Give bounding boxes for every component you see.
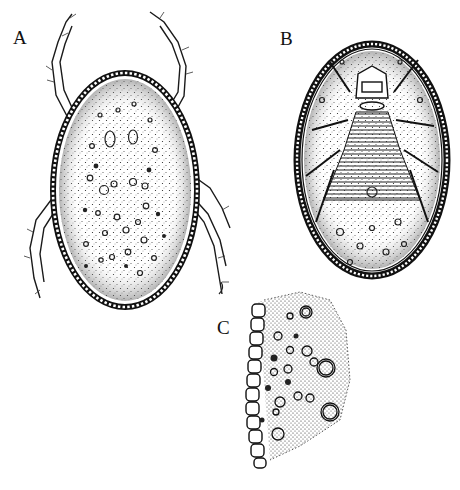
figure-illustration: [0, 0, 460, 490]
mite-ventral-view: [297, 44, 447, 276]
body-wall-section: [219, 282, 350, 468]
epidermal-cells: [246, 304, 266, 468]
mite-dorsal-view: [24, 12, 230, 307]
